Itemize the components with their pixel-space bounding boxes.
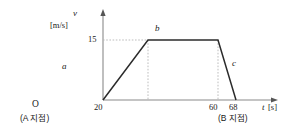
y-axis-variable-label: v [73, 9, 77, 18]
x-tick-label-20: 20 [94, 103, 103, 112]
segment-label-b: b [155, 24, 160, 33]
y-axis [100, 9, 105, 100]
segment-label-c: c [232, 59, 236, 68]
x-tick-label-60: 60 [209, 103, 218, 112]
x-axis-unit-label: [s] [268, 103, 277, 112]
velocity-time-graph: v [m/s] 15 20 60 68 t [s] a b c O (A 지점)… [0, 0, 299, 130]
point-b-label: (B 지점) [218, 114, 248, 123]
x-axis-variable-label: t [262, 103, 265, 112]
point-a-label: (A 지점) [20, 114, 49, 123]
graph-canvas [0, 0, 299, 130]
guide-lines [103, 40, 218, 100]
segment-label-a: a [62, 62, 67, 71]
velocity-curve [103, 40, 236, 100]
x-tick-label-68: 68 [229, 103, 238, 112]
y-axis-unit-label: [m/s] [50, 21, 68, 30]
origin-label: O [32, 100, 39, 110]
y-tick-label-15: 15 [88, 35, 97, 44]
x-axis [103, 98, 278, 103]
